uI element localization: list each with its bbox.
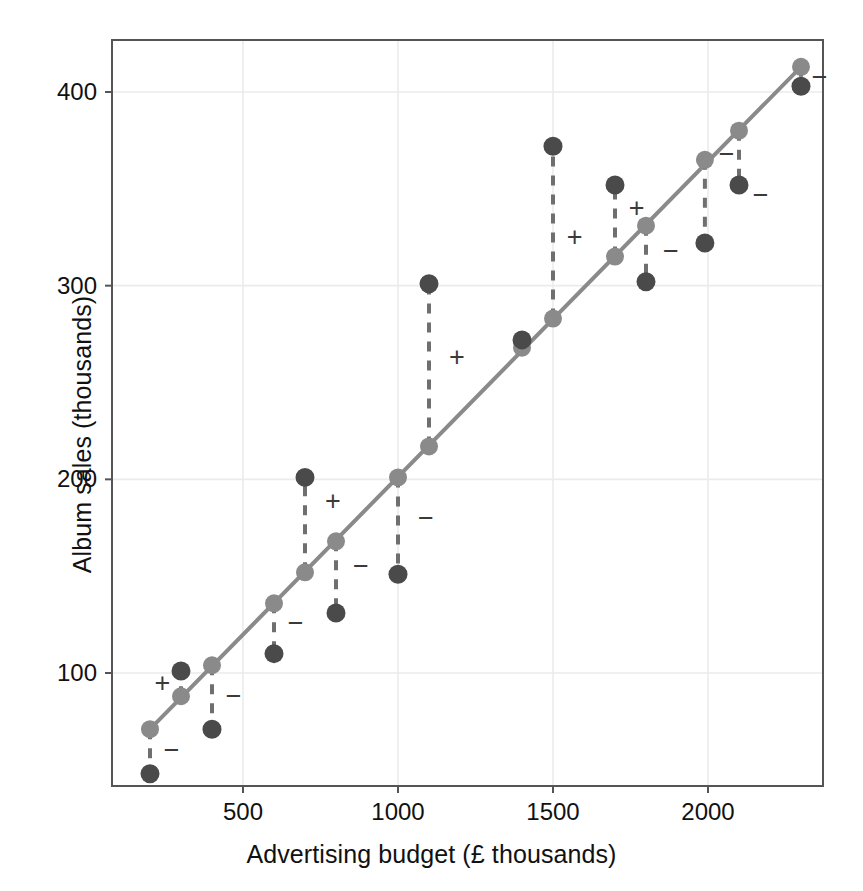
- observed-point: [203, 720, 222, 739]
- fitted-point: [296, 563, 314, 581]
- observed-point: [172, 662, 191, 681]
- observed-point: [327, 603, 346, 622]
- x-tick-label: 2000: [658, 798, 758, 826]
- observed-point: [606, 175, 625, 194]
- fitted-point: [327, 532, 345, 550]
- y-tick-label: 300: [27, 272, 97, 300]
- residual-negative-sign: −: [353, 551, 369, 581]
- fitted-point: [792, 58, 810, 76]
- fitted-point: [389, 468, 407, 486]
- residual-negative-sign: −: [226, 681, 242, 711]
- y-tick-label: 400: [27, 78, 97, 106]
- fitted-point: [730, 122, 748, 140]
- residual-positive-sign: +: [567, 222, 583, 252]
- observed-point: [420, 274, 439, 293]
- observed-point: [141, 764, 160, 783]
- observed-point: [513, 330, 532, 349]
- x-tick-label: 500: [193, 798, 293, 826]
- observed-point: [792, 77, 811, 96]
- observed-point: [389, 565, 408, 584]
- y-tick-label: 200: [27, 465, 97, 493]
- x-tick-label: 1500: [503, 798, 603, 826]
- residual-positive-sign: +: [155, 668, 171, 698]
- y-tick-label: 100: [27, 659, 97, 687]
- residual-negative-sign: −: [719, 139, 735, 169]
- residual-negative-sign: −: [288, 608, 304, 638]
- observed-point: [637, 272, 656, 291]
- residual-positive-sign: +: [325, 486, 341, 516]
- observed-point: [695, 234, 714, 253]
- observed-point: [296, 468, 315, 487]
- residual-positive-sign: +: [449, 342, 465, 372]
- fitted-point: [203, 656, 221, 674]
- figure-canvas: −+−−+−−+++−−−− Advertising budget (£ tho…: [0, 0, 863, 891]
- fitted-point: [606, 248, 624, 266]
- x-tick-label: 1000: [348, 798, 448, 826]
- fitted-point: [420, 437, 438, 455]
- fitted-point: [544, 310, 562, 328]
- fitted-point: [172, 687, 190, 705]
- residual-negative-sign: −: [663, 236, 679, 266]
- fitted-point: [265, 594, 283, 612]
- observed-point: [265, 644, 284, 663]
- observed-point: [544, 137, 563, 156]
- residual-positive-sign: +: [629, 193, 645, 223]
- residual-negative-sign: −: [753, 180, 769, 210]
- x-axis-title: Advertising budget (£ thousands): [0, 840, 863, 869]
- residual-negative-sign: −: [812, 62, 828, 92]
- residual-negative-sign: −: [164, 735, 180, 765]
- observed-point: [730, 175, 749, 194]
- fitted-point: [696, 151, 714, 169]
- residual-negative-sign: −: [418, 503, 434, 533]
- scatter-plot-svg: −+−−+−−+++−−−−: [0, 0, 863, 891]
- y-axis-title: Album sales (thousands): [68, 185, 97, 685]
- fitted-point: [141, 720, 159, 738]
